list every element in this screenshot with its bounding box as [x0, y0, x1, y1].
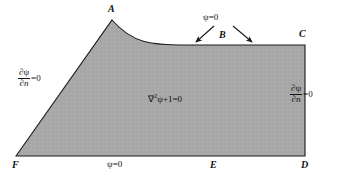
vertex-label-B: B	[219, 30, 226, 40]
bottom-boundary-condition-label: ψ=0	[107, 160, 122, 169]
vertex-label-F: F	[12, 160, 19, 170]
right-bc-fraction: ∂ψ ∂n	[290, 84, 302, 105]
vertex-label-C: C	[299, 29, 306, 39]
left-boundary-condition-label: ∂ψ ∂n =0	[18, 68, 41, 89]
right-bc-denominator: ∂n	[291, 95, 302, 104]
right-bc-equals-zero: =0	[302, 90, 313, 99]
region-diagram	[0, 0, 340, 179]
right-boundary-condition-label: ∂ψ ∂n =0	[290, 84, 313, 105]
vertex-label-E: E	[210, 160, 217, 170]
equation-tail: +1=0	[163, 94, 182, 104]
left-bc-numerator: ∂ψ	[18, 68, 30, 77]
arrow-right	[233, 26, 252, 42]
left-bc-denominator: ∂n	[19, 79, 30, 88]
vertex-label-A: A	[108, 4, 115, 14]
top-boundary-condition-label: ψ=0	[203, 13, 218, 22]
governing-equation-label: ∇2ψ+1=0	[148, 93, 182, 104]
vertex-label-D: D	[301, 160, 308, 170]
domain-region	[16, 20, 305, 156]
boundary-value-problem-figure: A B C D E F ψ=0 ψ=0 ∇2ψ+1=0 ∂ψ ∂n =0 ∂ψ …	[0, 0, 340, 179]
arrow-left	[196, 26, 214, 42]
left-bc-equals-zero: =0	[30, 74, 41, 83]
right-bc-numerator: ∂ψ	[290, 84, 302, 93]
left-bc-fraction: ∂ψ ∂n	[18, 68, 30, 89]
